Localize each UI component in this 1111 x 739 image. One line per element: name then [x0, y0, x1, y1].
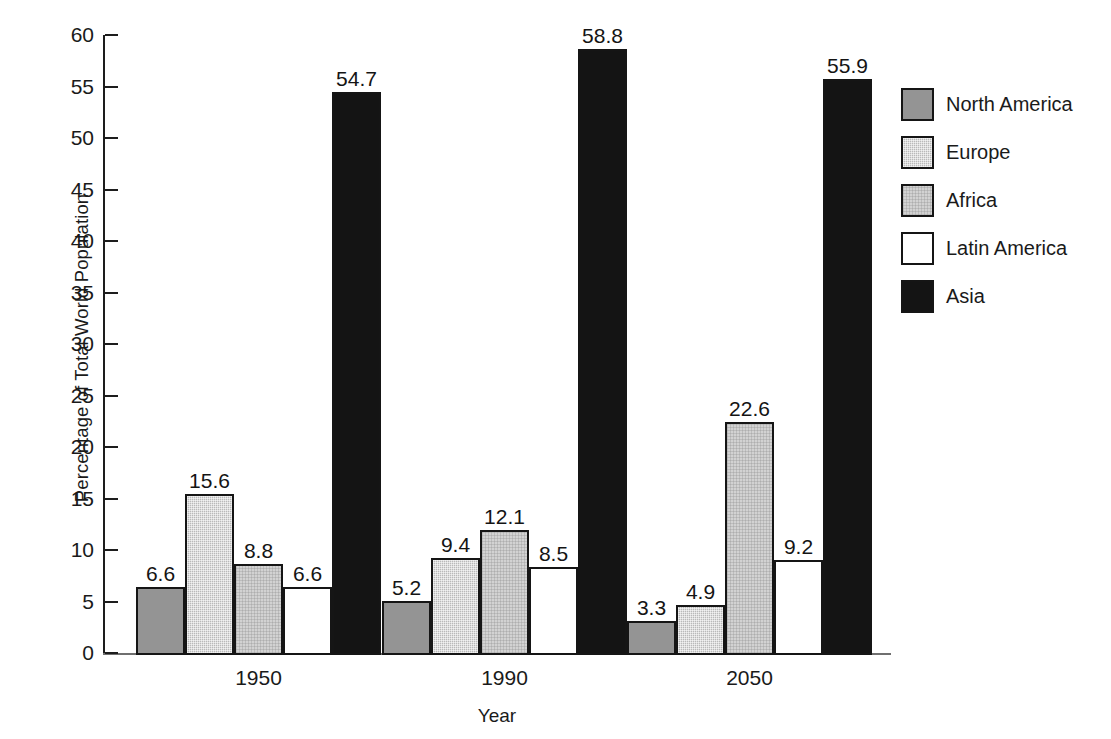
bar-value-label: 12.1	[484, 506, 525, 527]
bar-1950-africa[interactable]: 8.8	[234, 564, 283, 655]
legend-item-label: Europe	[946, 141, 1011, 163]
y-axis-tick-label: 15	[48, 488, 94, 509]
y-axis-tick-label: 60	[48, 24, 94, 45]
bar-2050-asia[interactable]: 55.9	[823, 79, 872, 655]
bar-value-label: 54.7	[336, 68, 377, 89]
y-axis-tick-mark	[105, 137, 118, 139]
y-axis-tick-mark	[105, 86, 118, 88]
legend-item-label: North America	[946, 93, 1073, 115]
legend-item-label: Latin America	[946, 237, 1067, 259]
bar-value-label: 55.9	[827, 55, 868, 76]
y-axis-tick-label: 45	[48, 179, 94, 200]
bar-1990-africa[interactable]: 12.1	[480, 530, 529, 655]
y-axis-tick-mark	[105, 549, 118, 551]
y-axis-tick-label: 50	[48, 127, 94, 148]
bar-value-label: 6.6	[146, 563, 175, 584]
y-axis-tick-mark	[105, 292, 118, 294]
bar-2050-north-america[interactable]: 3.3	[627, 621, 676, 655]
bar-2050-europe[interactable]: 4.9	[676, 605, 725, 655]
y-axis-tick-mark	[105, 240, 118, 242]
legend-swatch-icon	[901, 280, 934, 313]
bar-1990-north-america[interactable]: 5.2	[382, 601, 431, 655]
y-axis-tick-mark	[105, 446, 118, 448]
x-axis-tick-label: 2050	[660, 667, 840, 688]
bar-1950-latin-america[interactable]: 6.6	[283, 587, 332, 655]
bar-1950-europe[interactable]: 15.6	[185, 494, 234, 655]
x-axis-title: Year	[103, 705, 891, 727]
legend-item-label: Asia	[946, 285, 985, 307]
bar-2050-africa[interactable]: 22.6	[725, 422, 774, 655]
bar-2050-latin-america[interactable]: 9.2	[774, 560, 823, 655]
legend-item-label: Africa	[946, 189, 997, 211]
y-axis-tick-mark	[105, 498, 118, 500]
bar-value-label: 9.2	[784, 536, 813, 557]
y-axis-tick-label: 0	[48, 642, 94, 663]
y-axis-tick-mark	[105, 395, 118, 397]
bar-value-label: 3.3	[637, 597, 666, 618]
legend-swatch-icon	[901, 88, 934, 121]
y-axis-tick-label: 30	[48, 333, 94, 354]
bar-value-label: 22.6	[729, 398, 770, 419]
bar-group-2050: 3.34.922.69.255.9	[627, 35, 872, 655]
plot-area: 6.615.68.86.654.75.29.412.18.558.83.34.9…	[105, 35, 891, 655]
y-axis-tick-label: 55	[48, 76, 94, 97]
bar-1950-asia[interactable]: 54.7	[332, 92, 381, 655]
y-axis-tick-mark	[105, 34, 118, 36]
y-axis-tick-label: 40	[48, 230, 94, 251]
bar-value-label: 58.8	[582, 25, 623, 46]
y-axis-tick-label: 5	[48, 591, 94, 612]
bar-value-label: 15.6	[189, 470, 230, 491]
bar-value-label: 4.9	[686, 581, 715, 602]
y-axis-tick-mark	[105, 343, 118, 345]
bar-chart-figure: Percentage of Total World Population 051…	[0, 0, 1111, 739]
y-axis-tick-label: 10	[48, 539, 94, 560]
y-axis-tick-label: 35	[48, 282, 94, 303]
bar-value-label: 9.4	[441, 534, 470, 555]
legend-swatch-icon	[901, 232, 934, 265]
bar-1950-north-america[interactable]: 6.6	[136, 587, 185, 655]
y-axis-tick-labels: 051015202530354045505560	[38, 0, 94, 739]
bar-1990-europe[interactable]: 9.4	[431, 558, 480, 655]
y-axis-tick-mark	[105, 601, 118, 603]
y-axis-tick-label: 20	[48, 436, 94, 457]
x-axis-tick-label: 1950	[169, 667, 349, 688]
legend-swatch-icon	[901, 184, 934, 217]
bar-1990-asia[interactable]: 58.8	[578, 49, 627, 655]
bar-group-1990: 5.29.412.18.558.8	[382, 35, 627, 655]
y-axis-tick-mark	[105, 189, 118, 191]
bar-group-1950: 6.615.68.86.654.7	[136, 35, 381, 655]
legend-swatch-icon	[901, 136, 934, 169]
y-axis-tick-label: 25	[48, 385, 94, 406]
bar-1990-latin-america[interactable]: 8.5	[529, 567, 578, 655]
bar-value-label: 8.5	[539, 543, 568, 564]
bar-value-label: 8.8	[244, 540, 273, 561]
x-axis-tick-label: 1990	[415, 667, 595, 688]
y-axis-tick-mark	[105, 652, 118, 654]
bar-value-label: 5.2	[392, 577, 421, 598]
bar-value-label: 6.6	[293, 563, 322, 584]
